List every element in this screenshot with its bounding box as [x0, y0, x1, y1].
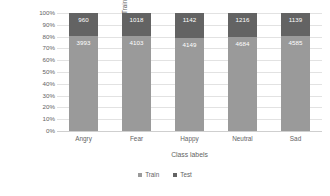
y-axis-tick-label: 80%: [28, 33, 55, 39]
legend-swatch-icon: [138, 173, 142, 177]
bar-value-label: 1139: [289, 17, 302, 23]
bar-segment-test[interactable]: 1139: [281, 13, 310, 36]
chart-legend: TrainTest: [0, 172, 330, 178]
bar-value-label: 4684: [236, 41, 250, 47]
bar-segment-train[interactable]: 4585: [281, 36, 310, 131]
bar-segment-test[interactable]: 1216: [228, 13, 257, 37]
y-axis-tick-label: 0%: [28, 128, 55, 134]
bar-group[interactable]: 12164684: [228, 13, 257, 131]
bar-group[interactable]: 10184103: [122, 13, 151, 131]
bar-segment-train[interactable]: 3993: [69, 36, 98, 131]
bar-value-label: 960: [78, 17, 88, 23]
y-axis-title: Train and test distribution percentage: [2, 0, 24, 22]
bar-value-label: 1216: [236, 17, 250, 23]
bar-series-container: 960399310184103114241491216468411394585: [57, 13, 322, 131]
gridline: [57, 131, 322, 132]
x-axis-tick-label: Fear: [112, 135, 162, 142]
bar-segment-test[interactable]: 1142: [175, 13, 204, 38]
y-axis-tick-label: 10%: [28, 116, 55, 122]
x-axis-tick-label: Sad: [271, 135, 321, 142]
bar-segment-train[interactable]: 4103: [122, 36, 151, 131]
legend-item[interactable]: Test: [173, 172, 192, 178]
plot-area: 960399310184103114241491216468411394585: [57, 13, 322, 131]
y-axis-tick-label: 70%: [28, 45, 55, 51]
x-axis-tick-label: Angry: [59, 135, 109, 142]
y-axis-tick-label: 40%: [28, 81, 55, 87]
bar-value-label: 1142: [183, 17, 196, 23]
bar-value-label: 4585: [289, 40, 303, 46]
y-axis-tick-label: 100%: [28, 10, 55, 16]
y-axis-tick-label: 90%: [28, 22, 55, 28]
x-axis-tick-label: Happy: [165, 135, 215, 142]
bar-segment-train[interactable]: 4684: [228, 37, 257, 131]
legend-swatch-icon: [173, 173, 177, 177]
bar-value-label: 3993: [77, 40, 91, 46]
bar-segment-train[interactable]: 4149: [175, 38, 204, 131]
y-axis-tick-labels: 100%90%80%70%60%50%40%30%20%10%0%: [28, 13, 55, 131]
y-axis-tick-label: 60%: [28, 57, 55, 63]
bar-value-label: 4103: [130, 40, 144, 46]
bar-group[interactable]: 11394585: [281, 13, 310, 131]
bar-segment-test[interactable]: 960: [69, 13, 98, 36]
y-axis-tick-label: 20%: [28, 104, 55, 110]
bar-segment-test[interactable]: 1018: [122, 13, 151, 36]
legend-item[interactable]: Train: [138, 172, 159, 178]
stacked-bar-chart: Train and test distribution percentage 1…: [0, 0, 330, 196]
bar-value-label: 4149: [183, 42, 197, 48]
legend-label: Train: [145, 172, 159, 178]
x-axis-tick-labels: AngryFearHappyNeutralSad: [57, 135, 322, 142]
bar-group[interactable]: 11424149: [175, 13, 204, 131]
x-axis-tick-label: Neutral: [218, 135, 268, 142]
bar-value-label: 1018: [130, 17, 144, 23]
bar-group[interactable]: 9603993: [69, 13, 98, 131]
legend-label: Test: [180, 172, 192, 178]
x-axis-title: Class labels: [57, 151, 322, 159]
y-axis-tick-label: 30%: [28, 92, 55, 98]
y-axis-tick-label: 50%: [28, 69, 55, 75]
